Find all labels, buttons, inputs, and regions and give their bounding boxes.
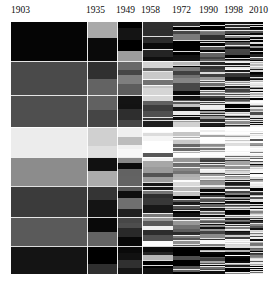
band-stratum [87,157,117,171]
band-stratum [142,268,173,274]
band-stratum [142,105,173,112]
stratum-divider [250,204,263,205]
stratum-divider [200,42,225,43]
stratum-divider [250,273,263,274]
band-stratum [142,61,173,68]
stratum-divider [225,267,250,268]
band-era-cell [225,246,250,274]
band-era-cell [87,61,117,94]
band-stratum [142,205,173,213]
band-era-cell [200,157,225,186]
band-stratum [117,149,142,157]
band-stratum [142,120,173,127]
stratum-divider [142,213,173,214]
era-divider [87,157,88,186]
stratum-divider [250,247,263,248]
stratum-divider [250,39,263,40]
stratum-divider [173,147,200,148]
band-era-cell [11,127,87,157]
stratum-divider [200,251,225,252]
stratum-divider [250,111,263,112]
stratum-divider [200,129,225,130]
band-era-cell [142,217,173,246]
stratum-divider [173,220,200,221]
stratum-divider [250,187,263,188]
stratum-divider [250,24,263,25]
band-era-cell [11,95,87,128]
stratum-divider [200,202,225,203]
band-era-cell [225,186,250,217]
era-divider [87,61,88,94]
band-stratum [87,79,117,94]
chart-band [11,95,263,128]
stratum-divider [250,196,263,197]
stratum-divider [225,35,250,36]
stratum-divider [200,270,225,271]
era-divider [142,186,143,217]
stratum-divider [225,247,250,248]
stratum-divider [250,117,263,118]
stratum-divider [250,77,263,78]
band-stratum [117,84,142,95]
band-stratum [87,171,117,186]
stratum-divider [173,191,200,192]
stratum-divider [250,271,263,272]
band-era-cell [117,186,142,217]
band-stratum [117,237,142,247]
band-stratum [87,146,117,157]
stratum-divider [173,120,200,121]
stratum-divider [200,169,225,170]
stratum-divider [225,243,250,244]
band-era-cell [87,157,117,186]
stratum-divider [142,190,173,191]
stratum-divider [250,80,263,81]
stratum-divider [250,167,263,168]
era-divider [142,246,143,274]
stratum-divider [250,201,263,202]
band-era-cell [11,22,87,61]
stratum-divider [250,235,263,236]
stratum-divider [250,160,263,161]
stratum-divider [250,219,263,220]
band-stratum [142,198,173,205]
stratum-divider [200,172,225,173]
stratum-divider [250,71,263,72]
chart-band [11,246,263,274]
chart-band [11,127,263,157]
stratum-divider [200,147,225,148]
stratum-divider [250,97,263,98]
era-divider [117,127,118,157]
band-stratum [117,137,142,145]
stratum-divider [250,123,263,124]
stratum-divider [225,62,250,63]
stratum-divider [200,122,225,123]
band-era-cell [200,22,225,61]
stratum-divider [173,205,200,206]
stratum-divider [173,151,200,152]
stratum-divider [250,182,263,183]
stratum-divider [225,83,250,84]
axis-tick-1949: 1949 [116,5,135,16]
band-era-cell [225,157,250,186]
stratum-divider [225,159,250,160]
stratum-divider [250,232,263,233]
band-stratum [117,228,142,237]
stratum-divider [225,173,250,174]
stratum-divider [142,117,173,118]
band-era-cell [142,61,173,94]
band-era-cell [87,95,117,128]
era-divider [87,186,88,217]
band-era-cell [117,61,142,94]
band-era-cell [173,95,200,128]
stratum-divider [225,134,250,135]
stratum-divider [250,191,263,192]
stratum-divider [225,124,250,125]
band-divider [11,127,263,128]
stratum-divider [200,192,225,193]
era-divider [87,217,88,246]
band-era-cell [117,217,142,246]
stratum-divider [200,162,225,163]
era-divider [142,217,143,246]
stratum-divider [200,214,225,215]
band-stratum [87,246,117,264]
